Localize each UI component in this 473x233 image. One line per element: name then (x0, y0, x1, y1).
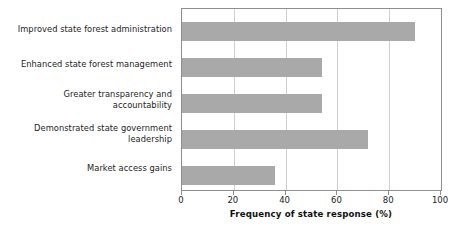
tick-label-100: 100 (432, 195, 448, 206)
x-axis-tick-labels: 0 20 40 60 80 100 (181, 195, 441, 208)
bar-3 (182, 94, 322, 113)
category-label-2: Enhanced state forest management (0, 59, 172, 70)
category-label-3: Greater transparency and accountability (0, 89, 172, 110)
bar-2 (182, 58, 322, 77)
category-label-5: Market access gains (0, 163, 172, 174)
category-axis: Improved state forest administration Enh… (0, 5, 176, 195)
tick-label-20: 20 (227, 195, 238, 206)
bars-layer (182, 9, 441, 190)
tick-label-0: 0 (178, 195, 183, 206)
tick-label-80: 80 (383, 195, 394, 206)
bar-5 (182, 166, 275, 185)
plot-area (181, 8, 442, 191)
x-axis-title: Frequency of state response (%) (181, 209, 441, 219)
bar-1 (182, 22, 415, 41)
bar-4 (182, 130, 368, 149)
tick-label-40: 40 (279, 195, 290, 206)
category-label-4: Demonstrated state government leadership (0, 123, 172, 144)
bar-chart: Improved state forest administration Enh… (0, 0, 473, 233)
tick-label-60: 60 (331, 195, 342, 206)
category-label-1: Improved state forest administration (0, 24, 172, 35)
